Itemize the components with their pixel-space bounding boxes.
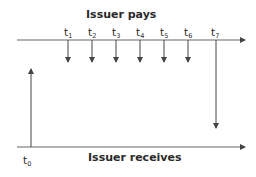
time-label-t5: t5: [160, 27, 168, 40]
payment-arrows: [68, 40, 216, 128]
time-label-t4: t4: [136, 27, 144, 40]
time-label-t6: t6: [184, 27, 192, 40]
issuer-receives-label: Issuer receives: [88, 152, 182, 163]
time-label-t7: t7: [211, 27, 219, 40]
time-label-t3: t3: [112, 27, 120, 40]
time-label-t1: t1: [64, 27, 72, 40]
time-label-t2: t2: [88, 27, 96, 40]
time-label-t0: t0: [23, 155, 31, 168]
issuer-pays-label: Issuer pays: [86, 9, 156, 20]
